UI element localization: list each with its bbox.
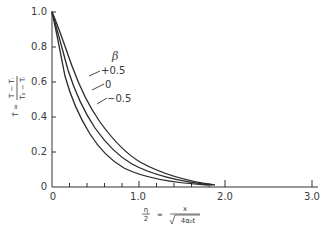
x-tick-0: 0 [50, 191, 56, 202]
curve-beta-0 [52, 12, 212, 185]
x-label-eta: η [144, 206, 148, 214]
y-tick-0.6: 0.6 [31, 76, 47, 87]
y-tick-labels: 1.0 0.8 0.6 0.4 0.2 0 [31, 6, 47, 192]
x-tick-1.0: 1.0 [130, 191, 146, 202]
legend-entry-plus-0.5: +0.5 [101, 65, 125, 76]
y-tick-0.8: 0.8 [31, 41, 47, 52]
chart: 1.0 0.8 0.6 0.4 0.2 0 0 1.0 2.0 3.0 [0, 0, 332, 233]
y-axis-label: T̄ = T − Tᵢ T₀ − Tᵢ [8, 76, 27, 117]
x-label-eq: = [157, 211, 163, 219]
x-axis-label: η 2 = x 4α₀t [142, 205, 200, 225]
y-label-denominator: T₀ − Tᵢ [19, 77, 27, 101]
y-label-numerator: T − Tᵢ [8, 78, 16, 99]
legend-entry-0: 0 [105, 79, 111, 90]
legend-title: β [111, 50, 118, 63]
legend-entry-minus-0.5: −0.5 [107, 93, 131, 104]
x-label-x: x [183, 205, 187, 213]
y-ticks [52, 12, 56, 152]
x-label-two: 2 [144, 215, 148, 223]
x-tick-labels: 0 1.0 2.0 3.0 [50, 191, 320, 202]
x-tick-3.0: 3.0 [304, 191, 320, 202]
x-tick-2.0: 2.0 [217, 191, 233, 202]
curve-beta-plus-0.5 [52, 12, 215, 185]
y-label-lhs: T̄ = [11, 104, 20, 118]
y-tick-0: 0 [41, 181, 47, 192]
x-label-denominator: 4α₀t [181, 217, 196, 225]
curves [52, 12, 215, 185]
y-tick-0.4: 0.4 [31, 111, 47, 122]
y-tick-1.0: 1.0 [31, 6, 47, 17]
y-tick-0.2: 0.2 [31, 146, 47, 157]
